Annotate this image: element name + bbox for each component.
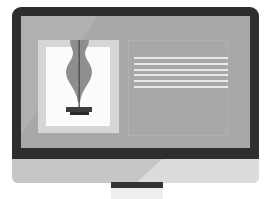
image-panel [38,40,119,133]
vase-lamp-icon [38,40,119,133]
text-line [134,69,228,71]
chin-highlight [12,159,259,183]
text-line [134,80,228,82]
text-line [134,86,228,88]
monitor-chin [12,159,259,183]
monitor-illustration [0,0,266,199]
stand-neck [111,188,163,199]
text-line [134,74,228,76]
text-panel [128,40,228,136]
text-line [134,57,228,59]
text-line [134,63,228,65]
monitor-bezel [12,7,259,160]
monitor-screen [21,16,250,148]
